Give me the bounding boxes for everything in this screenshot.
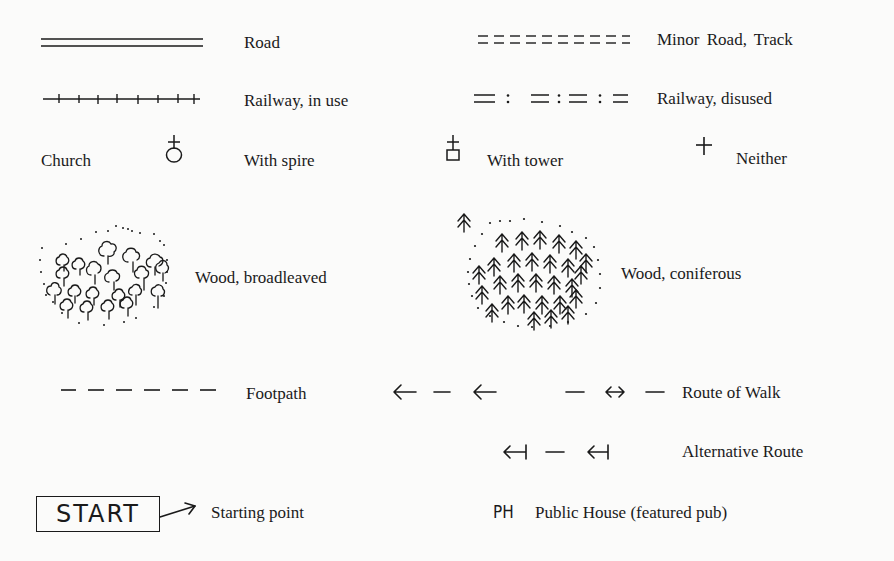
with-tower-label: With tower — [487, 151, 563, 171]
map-legend: Road Minor Road, Track Ra — [0, 0, 894, 561]
wood-broadleaved-icon — [36, 220, 172, 330]
alternative-route-label: Alternative Route — [682, 442, 803, 462]
alternative-route-symbol-icon — [502, 443, 622, 461]
route-of-walk-symbol-icon — [564, 383, 668, 401]
start-box-symbol: START — [36, 496, 160, 532]
with-spire-label: With spire — [244, 151, 315, 171]
church-neither-cross-icon — [694, 136, 714, 156]
railway-in-use-symbol-icon — [42, 91, 202, 107]
wood-broadleaved-label: Wood, broadleaved — [195, 268, 327, 288]
starting-point-label: Starting point — [211, 503, 304, 523]
church-with-spire-icon — [163, 133, 185, 165]
start-box-text: START — [37, 497, 159, 531]
road-symbol-icon — [40, 36, 206, 50]
railway-disused-label: Railway, disused — [657, 89, 772, 109]
public-house-label: Public House (featured pub) — [535, 503, 727, 523]
footpath-symbol-icon — [60, 386, 230, 394]
minor-road-label: Minor Road, Track — [657, 30, 793, 50]
start-arrow-icon — [159, 500, 201, 522]
church-with-tower-icon — [443, 133, 463, 163]
footpath-label: Footpath — [246, 384, 306, 404]
wood-coniferous-icon — [464, 214, 604, 330]
neither-label: Neither — [736, 149, 787, 169]
road-label: Road — [244, 33, 280, 53]
footpath-direction-arrows-icon — [392, 383, 502, 401]
public-house-abbr: PH — [493, 501, 514, 522]
railway-disused-symbol-icon — [473, 92, 645, 106]
minor-road-symbol-icon — [478, 33, 634, 47]
railway-in-use-label: Railway, in use — [244, 91, 348, 111]
wood-coniferous-label: Wood, coniferous — [621, 264, 741, 284]
route-of-walk-label: Route of Walk — [682, 383, 780, 403]
church-label: Church — [41, 151, 91, 171]
